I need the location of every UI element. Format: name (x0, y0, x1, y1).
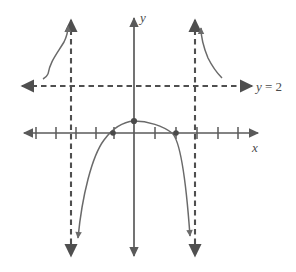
function-curve-group (43, 26, 222, 238)
left-branch-curve (48, 26, 68, 74)
right-branch-curve (201, 28, 222, 78)
x-axis-label: x (251, 140, 258, 155)
horizontal-asymptote-label-rest: = 2 (262, 79, 282, 94)
y-axis-label: y (138, 10, 146, 25)
math-graph-figure: x y y = 2 (0, 0, 296, 272)
left-branch-curve-tail (43, 74, 48, 79)
vertex-point (131, 118, 137, 124)
graph-canvas: x y y = 2 (0, 0, 296, 272)
axes-group: x y (24, 10, 258, 256)
horizontal-asymptote-group: y = 2 (22, 79, 282, 94)
right-x-intercept-point (173, 130, 179, 136)
horizontal-asymptote-label: y = 2 (254, 79, 282, 94)
left-x-intercept-point (110, 130, 116, 136)
